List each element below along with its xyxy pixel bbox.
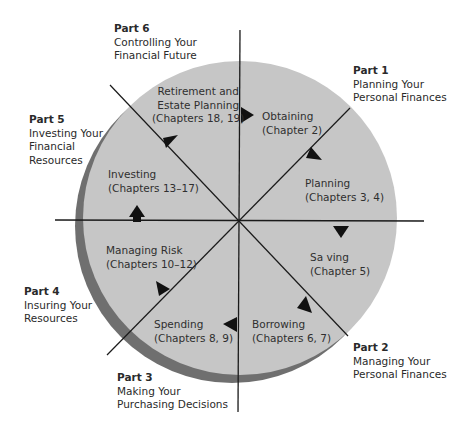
part-desc: Insuring Your xyxy=(24,299,92,313)
part-3-label: Part 3 Making Your Purchasing Decisions xyxy=(117,371,228,412)
segment-name: Borrowing xyxy=(252,318,331,332)
part-title: Part 1 xyxy=(353,64,447,78)
segment-name: Managing Risk xyxy=(106,244,197,258)
part-2-label: Part 2 Managing Your Personal Finances xyxy=(353,341,447,382)
segment-chapters: (Chapters 6, 7) xyxy=(252,332,331,346)
segment-chapters: (Chapters 18, 19) xyxy=(152,112,244,126)
segment-saving: Sa ving (Chapter 5) xyxy=(310,251,370,278)
segment-managing-risk: Managing Risk (Chapters 10–12) xyxy=(106,244,197,271)
part-title: Part 6 xyxy=(114,22,197,36)
part-desc: Personal Finances xyxy=(353,91,447,105)
part-desc: Making Your xyxy=(117,385,228,399)
segment-name: Obtaining xyxy=(262,110,322,124)
part-1-label: Part 1 Planning Your Personal Finances xyxy=(353,64,447,105)
part-5-label: Part 5 Investing Your Financial Resource… xyxy=(29,113,103,167)
part-6-label: Part 6 Controlling Your Financial Future xyxy=(114,22,197,63)
segment-name: Estate Planning xyxy=(152,99,244,113)
arrow-up-stem xyxy=(133,217,141,222)
part-desc: Financial Future xyxy=(114,49,197,63)
segment-spending: Spending (Chapters 8, 9) xyxy=(154,318,233,345)
segment-planning: Planning (Chapters 3, 4) xyxy=(305,177,384,204)
segment-chapters: (Chapters 13–17) xyxy=(108,182,199,196)
part-desc: Managing Your xyxy=(353,355,447,369)
segment-name: Spending xyxy=(154,318,233,332)
segment-obtaining: Obtaining (Chapter 2) xyxy=(262,110,322,137)
part-title: Part 3 xyxy=(117,371,228,385)
part-desc: Controlling Your xyxy=(114,36,197,50)
part-desc: Personal Finances xyxy=(353,368,447,382)
segment-chapters: (Chapter 2) xyxy=(262,124,322,138)
part-desc: Purchasing Decisions xyxy=(117,398,228,412)
part-desc: Financial xyxy=(29,140,103,154)
segment-chapters: (Chapters 8, 9) xyxy=(154,332,233,346)
segment-investing: Investing (Chapters 13–17) xyxy=(108,168,199,195)
part-desc: Resources xyxy=(29,154,103,168)
part-title: Part 4 xyxy=(24,285,92,299)
segment-name: Retirement and xyxy=(152,85,244,99)
segment-name: Investing xyxy=(108,168,199,182)
segment-name: Planning xyxy=(305,177,384,191)
part-desc: Investing Your xyxy=(29,127,103,141)
part-desc: Resources xyxy=(24,312,92,326)
part-title: Part 5 xyxy=(29,113,103,127)
segment-chapters: (Chapters 10–12) xyxy=(106,258,197,272)
part-title: Part 2 xyxy=(353,341,447,355)
segment-name: Sa ving xyxy=(310,251,370,265)
segment-chapters: (Chapter 5) xyxy=(310,265,370,279)
part-desc: Planning Your xyxy=(353,78,447,92)
segment-borrowing: Borrowing (Chapters 6, 7) xyxy=(252,318,331,345)
segment-chapters: (Chapters 3, 4) xyxy=(305,191,384,205)
segment-retirement: Retirement and Estate Planning (Chapters… xyxy=(152,85,244,126)
part-4-label: Part 4 Insuring Your Resources xyxy=(24,285,92,326)
